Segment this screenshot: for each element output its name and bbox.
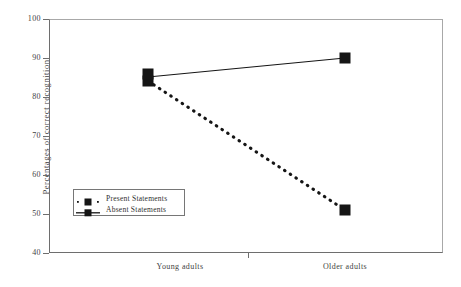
legend-swatch-dotted-line — [74, 193, 106, 204]
legend-label: Absent Statements — [106, 205, 166, 214]
y-tick-label-group: 90 — [0, 53, 41, 63]
y-tick-label-group: 50 — [0, 209, 41, 219]
x-tick-mark — [248, 253, 249, 258]
legend-item-absent-statements: Absent Statements — [74, 203, 184, 215]
y-tick-label: 70 — [1, 131, 41, 140]
y-tick-mark — [43, 253, 49, 254]
y-tick-label-group: 80 — [0, 92, 41, 102]
y-tick-label-group: 70 — [0, 131, 41, 141]
legend-swatch-solid-line — [74, 204, 106, 215]
y-tick-label: 90 — [1, 53, 41, 62]
plot-area — [49, 19, 443, 253]
y-tick-label: 80 — [1, 92, 41, 101]
y-tick-label-group: 40 — [0, 248, 41, 258]
y-tick-label-group: 100 — [0, 14, 41, 24]
x-tick-label-older-adults: Older adults — [295, 262, 395, 271]
y-tick-label-group: 60 — [0, 170, 41, 180]
chart-figure: Percentages of correct recognition 100 9… — [0, 0, 461, 287]
y-tick-label: 40 — [1, 248, 41, 257]
x-tick-label-young-adults: Young adults — [130, 262, 230, 271]
legend-label: Present Statements — [106, 194, 167, 203]
y-tick-label: 50 — [1, 209, 41, 218]
y-tick-label: 60 — [1, 170, 41, 179]
y-tick-label: 100 — [1, 14, 41, 23]
chart-legend: Present Statements Absent Statements — [73, 189, 185, 216]
